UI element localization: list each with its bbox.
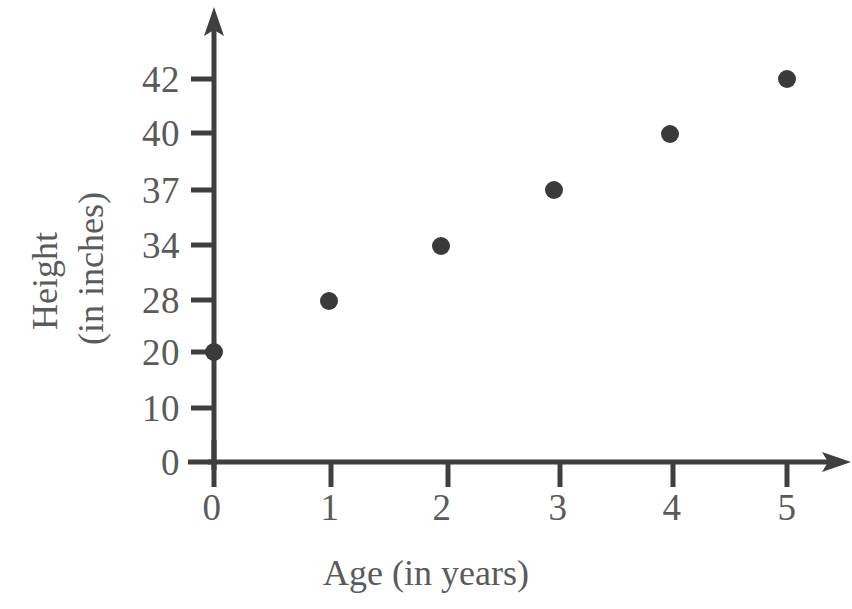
x-tick-label-1: 1 (321, 489, 340, 526)
x-axis-title: Age (in years) (0, 552, 852, 594)
y-tick-label-40: 40 (110, 115, 180, 152)
x-tick-label-5: 5 (778, 489, 797, 526)
data-point (661, 125, 679, 143)
y-tick-label-0: 0 (110, 444, 180, 481)
scatter-plot-figure: 42 40 37 34 28 20 10 0 0 1 2 3 4 5 Heigh… (0, 0, 852, 609)
data-point (320, 292, 338, 310)
data-point-series (205, 70, 796, 361)
x-tick-label-2: 2 (433, 489, 452, 526)
data-point (432, 237, 450, 255)
x-tick-label-4: 4 (663, 489, 682, 526)
x-tick-label-3: 3 (549, 489, 568, 526)
y-tick-label-42: 42 (110, 61, 180, 98)
y-tick-label-34: 34 (110, 227, 180, 264)
y-tick-label-28: 28 (110, 282, 180, 319)
x-tick-label-0: 0 (203, 489, 222, 526)
data-point (545, 181, 563, 199)
data-point (205, 343, 223, 361)
y-tick-label-10: 10 (110, 390, 180, 427)
y-tick-label-20: 20 (110, 334, 180, 371)
data-point (778, 70, 796, 88)
y-axis-ticks (188, 79, 214, 462)
y-tick-label-37: 37 (110, 172, 180, 209)
